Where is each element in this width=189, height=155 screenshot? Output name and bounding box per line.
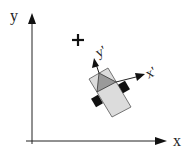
robot-x-axis (116, 77, 136, 82)
x-axis-label: x (173, 133, 181, 149)
robot (89, 58, 145, 117)
world-x-axis (26, 137, 167, 145)
world-y-axis (28, 13, 36, 144)
y-axis-label: y (10, 8, 18, 24)
robot-body (89, 68, 131, 117)
plus-marker-icon (72, 34, 84, 46)
robot-frame-diagram (0, 0, 189, 155)
